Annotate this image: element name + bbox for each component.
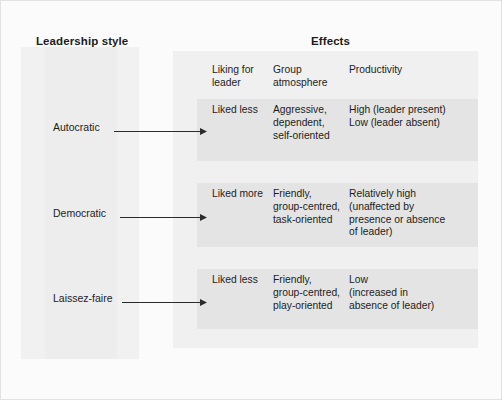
effect-liking-laissez-faire: Liked less	[212, 274, 272, 287]
leadership-style-label-democratic: Democratic	[53, 205, 106, 222]
heading-effects: Effects	[311, 35, 350, 47]
effects-column-header-atmosphere: Group atmosphere	[273, 64, 347, 90]
effect-productivity-autocratic: High (leader present) Low (leader absent…	[349, 104, 475, 130]
effects-column-header-liking: Liking for leader	[212, 64, 272, 90]
leadership-styles-figure: Leadership style Effects Liking for lead…	[0, 0, 502, 400]
effect-productivity-democratic: Relatively high (unaffected by presence …	[349, 188, 475, 239]
effect-productivity-laissez-faire: Low (increased in absence of leader)	[349, 274, 475, 312]
effect-atmosphere-autocratic: Aggressive, dependent, self-oriented	[273, 104, 347, 142]
effect-atmosphere-democratic: Friendly, group-centred, task-oriented	[273, 188, 347, 226]
arrow-right-icon-democratic	[120, 213, 207, 222]
arrow-right-icon-autocratic	[114, 127, 207, 136]
effect-atmosphere-laissez-faire: Friendly, group-centred, play-oriented	[273, 274, 347, 312]
leadership-style-label-laissez-faire: Laissez-faire	[53, 290, 113, 307]
leadership-style-label-autocratic: Autocratic	[53, 119, 100, 136]
effect-liking-autocratic: Liked less	[212, 104, 272, 117]
heading-leadership-style: Leadership style	[36, 35, 128, 47]
effects-column-header-productivity: Productivity	[349, 64, 475, 77]
arrow-right-icon-laissez-faire	[122, 298, 207, 307]
effect-liking-democratic: Liked more	[212, 188, 272, 201]
leadership-column-inner-panel	[45, 47, 117, 359]
